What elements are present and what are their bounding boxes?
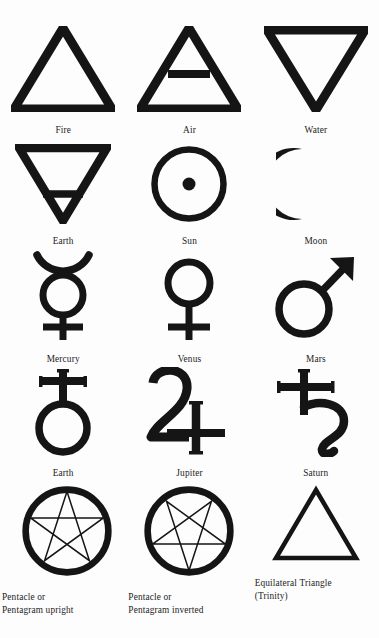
symbol-cell-mars: Mars [253, 249, 379, 366]
symbol-cell-equilateral-triangle: Equilateral Triangle (Trinity) [253, 476, 379, 602]
glyph-container [253, 484, 379, 568]
symbol-label: Water [304, 125, 327, 137]
symbol-grid: Fire Air Water [0, 0, 379, 638]
symbol-cell-saturn: Saturn [253, 364, 379, 480]
earth-planet-icon [27, 367, 99, 461]
symbol-cell-earth-element: Earth [0, 136, 126, 248]
symbol-cell-moon: Moon [253, 136, 379, 248]
pentagram-inverted-in-circle-icon [142, 484, 236, 582]
symbol-label: Fire [55, 125, 71, 137]
symbol-cell-fire: Fire [0, 0, 126, 137]
upward-triangle-icon [11, 26, 115, 116]
mars-icon [272, 251, 360, 347]
symbol-label: Moon [304, 236, 327, 248]
jupiter-icon [145, 367, 233, 461]
symbol-label: Earth [53, 236, 74, 248]
symbol-chart-sheet: Fire Air Water [0, 0, 379, 638]
symbol-cell-earth-planet: Earth [0, 364, 126, 480]
downward-triangle-with-bar-icon [15, 144, 111, 228]
upward-triangle-with-bar-icon [137, 26, 241, 116]
symbol-cell-pentacle-inverted: Pentacle or Pentagram inverted [126, 476, 252, 616]
symbol-cell-venus: Venus [126, 249, 252, 366]
symbol-label: Sun [182, 236, 197, 248]
symbol-label: Air [183, 125, 196, 137]
venus-icon [153, 251, 225, 347]
symbol-cell-water: Water [253, 0, 379, 137]
mercury-icon [27, 251, 99, 347]
symbol-cell-air: Air [126, 0, 252, 137]
glyph-container [0, 484, 130, 582]
crescent-moon-icon [276, 144, 356, 228]
symbol-cell-jupiter: Jupiter [126, 364, 252, 480]
symbol-cell-sun: Sun [126, 136, 252, 248]
glyph-container [126, 484, 252, 582]
symbol-cell-mercury: Mercury [0, 249, 126, 366]
circle-with-center-dot-icon [149, 144, 229, 228]
symbol-label: Pentacle or Pentagram upright [0, 591, 74, 616]
thin-upward-triangle-icon [271, 484, 361, 568]
downward-triangle-icon [264, 26, 368, 116]
symbol-cell-pentacle-upright: Pentacle or Pentagram upright [0, 476, 126, 616]
pentagram-upright-in-circle-icon [20, 484, 114, 582]
symbol-label: Equilateral Triangle (Trinity) [253, 577, 332, 602]
saturn-icon [274, 367, 358, 461]
symbol-label: Pentacle or Pentagram inverted [126, 591, 203, 616]
